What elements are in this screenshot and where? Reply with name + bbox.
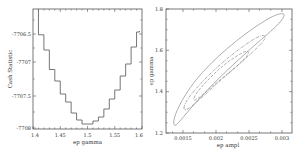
left-xtick-label: 1.5 [84,132,92,138]
left-xtick-label: 1.45 [55,132,66,138]
right-x-ticks [173,9,283,133]
left-ytick-label: -7707 [17,59,31,65]
right-ytick-label: 1.8 [155,6,163,12]
right-ytick-label: 1.2 [155,130,163,136]
right-xtick-label: 0.003 [275,135,289,141]
right-xtick-label: 0.0025 [240,135,258,141]
left-xtick-label: 1.4 [31,132,39,138]
right-ytick-label: 1.4 [155,88,163,94]
right-plot-frame [166,9,292,133]
left-plot: -7706.5 -7707 -7707.5 -7708 1.4 1.45 1.5… [7,9,143,146]
cash-statistic-step-curve [38,9,139,124]
right-y-axis-label: ep gamma [148,56,155,86]
right-ytick-label: 1.6 [155,47,163,53]
right-y-ticks [166,9,292,133]
left-x-axis-label: ep gamma [73,139,103,146]
left-y-axis-label: Cash Statistic [7,50,13,89]
left-ytick-label: -7707.5 [12,93,31,99]
left-ytick-label: -7708 [17,125,31,131]
right-plot: 1.2 1.4 1.6 1.8 0.0015 0.002 0.0025 0.00… [148,6,292,149]
right-x-axis-label: ep ampl [217,142,240,149]
right-xtick-label: 0.0015 [174,135,192,141]
figure: -7706.5 -7707 -7707.5 -7708 1.4 1.45 1.5… [0,0,298,152]
left-xtick-label: 1.55 [109,132,120,138]
right-xtick-label: 0.002 [209,135,223,141]
left-ytick-label: -7706.5 [12,31,31,37]
left-xtick-label: 1.6 [135,132,143,138]
contour-outer [174,14,284,126]
